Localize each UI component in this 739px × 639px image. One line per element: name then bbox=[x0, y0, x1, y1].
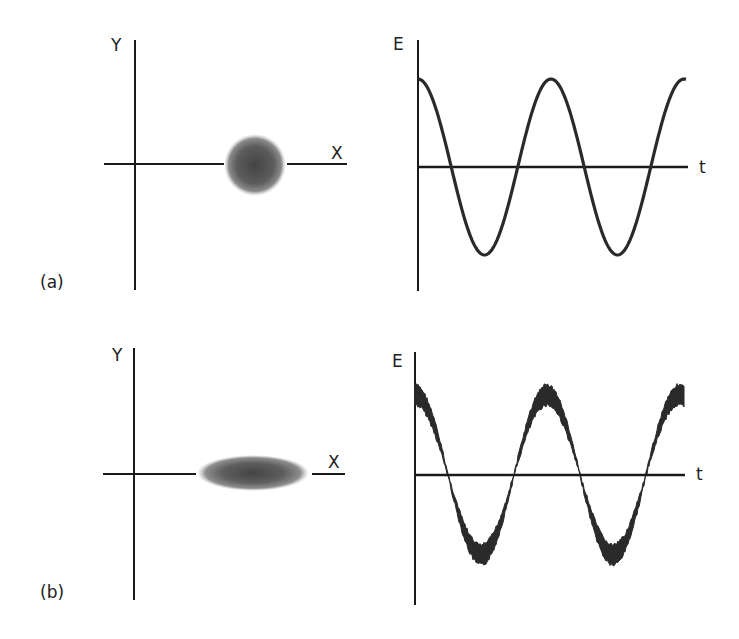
phase-plot-a bbox=[104, 40, 347, 290]
panel-b-graphics bbox=[0, 320, 739, 639]
t-axis-label-a: t bbox=[699, 159, 706, 176]
x-axis-label-a: X bbox=[331, 145, 343, 162]
field-plot-a bbox=[418, 40, 688, 291]
e-axis-label-a: E bbox=[393, 36, 404, 53]
t-axis-label-b: t bbox=[696, 466, 703, 483]
coherent-state-spot bbox=[224, 134, 286, 196]
x-axis-label-b: X bbox=[328, 454, 340, 471]
panel-b: Y X E t (b) bbox=[0, 320, 739, 639]
panel-label-b: (b) bbox=[40, 582, 64, 602]
e-axis-label-b: E bbox=[392, 353, 403, 370]
y-axis-label-b: Y bbox=[112, 347, 122, 364]
squeezed-state-spot bbox=[197, 455, 309, 491]
panel-a: Y X E t (a) bbox=[0, 0, 739, 320]
phase-plot-b bbox=[103, 348, 345, 600]
panel-label-a: (a) bbox=[40, 272, 64, 292]
y-axis-label-a: Y bbox=[111, 37, 121, 54]
field-plot-b bbox=[415, 352, 685, 605]
